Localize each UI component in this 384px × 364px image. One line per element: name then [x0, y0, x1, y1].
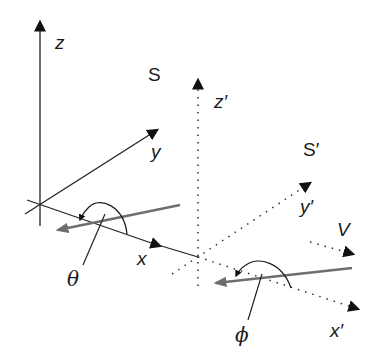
- y-prime-axis-label: y′: [298, 196, 315, 217]
- phi-label: ϕ: [235, 323, 249, 347]
- x-axis-label: x: [136, 248, 148, 269]
- z-prime-axis-label: z′: [213, 91, 229, 112]
- frame-s-prime: z′ y′ x′ S′ V ϕ: [172, 80, 358, 347]
- y-axis-label: y: [149, 141, 162, 162]
- reference-frames-diagram: z y x S θ z′ y′ x′ S′ V ϕ: [0, 0, 384, 364]
- phi-leader-line: [248, 274, 262, 320]
- y-prime-axis: [172, 183, 310, 274]
- x-axis-extension: [158, 245, 198, 257]
- theta-label: θ: [67, 267, 79, 291]
- velocity-label: V: [337, 219, 352, 240]
- velocity-arrow: [310, 242, 353, 254]
- y-axis: [25, 130, 157, 214]
- x-prime-axis-label: x′: [329, 320, 345, 341]
- z-axis-label: z: [54, 32, 65, 53]
- frame-s-label: S: [148, 64, 161, 85]
- frame-s-prime-label: S′: [303, 139, 320, 160]
- frame-s: z y x S θ: [25, 22, 198, 291]
